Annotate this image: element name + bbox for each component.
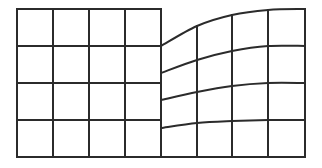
diagram-svg — [0, 0, 322, 168]
warped-grid — [161, 9, 305, 157]
grid-diagram — [0, 0, 322, 168]
regular-grid — [17, 9, 161, 157]
